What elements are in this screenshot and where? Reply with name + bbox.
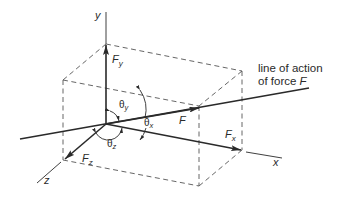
theta-x-label: θx	[144, 117, 154, 130]
fy-label: Fy	[112, 53, 124, 68]
y-axis-label: y	[94, 9, 102, 21]
force-diagram: y x z Fy Fx Fz F θy θx θz line of action…	[0, 0, 340, 201]
theta-y-arc	[110, 111, 119, 121]
annotation-line1: line of action	[258, 62, 323, 74]
fx-vector	[106, 124, 241, 150]
x-axis-label: x	[272, 156, 279, 168]
fz-label: Fz	[82, 152, 93, 167]
axes	[37, 12, 282, 183]
theta-z-label: θz	[107, 138, 117, 151]
force-label: F	[179, 114, 187, 126]
theta-x-arc-bottom	[140, 128, 146, 140]
theta-y-label: θy	[119, 99, 130, 112]
fx-label: Fx	[225, 128, 237, 143]
annotation-line2: of force F	[258, 75, 308, 87]
angle-arcs	[96, 90, 146, 140]
theta-x-arc-top	[140, 90, 146, 118]
z-axis-label: z	[43, 174, 50, 186]
